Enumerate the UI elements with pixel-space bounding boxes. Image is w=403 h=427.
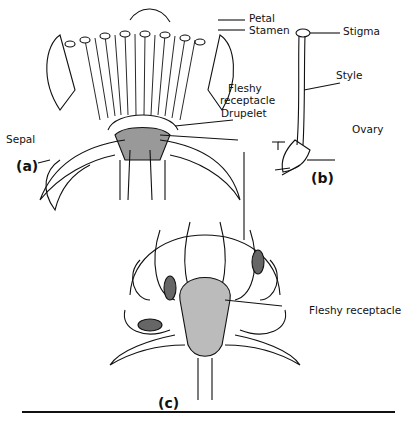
label-petal: Petal: [249, 12, 275, 24]
raspberry-flower-diagram: Petal Stamen Fleshy receptacle Drupelet …: [0, 0, 403, 427]
label-style: Style: [336, 69, 362, 81]
diagram-drawing: [0, 0, 403, 427]
label-fleshy-receptacle-a-line2: receptacle: [220, 94, 275, 106]
panel-label-b: (b): [311, 170, 334, 186]
label-fleshy-receptacle-a-line1: Fleshy: [228, 82, 262, 94]
panel-label-c: (c): [158, 395, 179, 411]
panel-label-a: (a): [16, 158, 38, 174]
label-ovary: Ovary: [352, 123, 383, 135]
label-sepal: Sepal: [6, 133, 35, 145]
label-stamen: Stamen: [249, 24, 290, 36]
label-drupelet: Drupelet: [221, 107, 267, 119]
label-fleshy-receptacle-c: Fleshy receptacle: [309, 304, 401, 316]
bottom-rule: [22, 411, 395, 413]
label-stigma: Stigma: [343, 25, 380, 37]
